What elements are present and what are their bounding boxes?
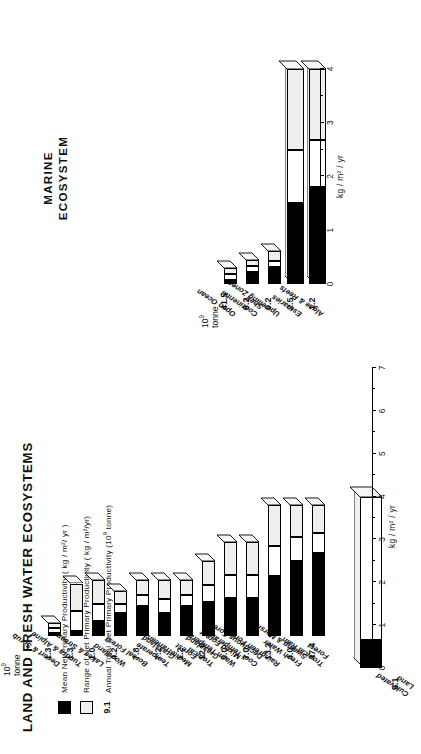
bar-side-face — [217, 260, 237, 268]
bar-front-face — [287, 69, 304, 284]
bar-front-face — [246, 542, 259, 636]
marine-axis-tick — [320, 283, 324, 284]
marine-axis-line — [320, 69, 321, 284]
bar-top-face — [261, 498, 268, 636]
bar-marine-4 — [217, 261, 237, 284]
bar-front-face — [290, 505, 303, 636]
bar-front-face — [48, 623, 61, 636]
bar-segment-mean — [48, 633, 61, 636]
land-axis-minor-tick — [372, 431, 375, 432]
bar-segment-range — [268, 546, 281, 576]
bar-land-10 — [85, 573, 105, 636]
bar-segment-mean — [202, 602, 215, 636]
bar-segment-range — [246, 266, 259, 272]
bar-front-face — [158, 580, 171, 636]
bar-land-8 — [129, 573, 149, 636]
bar-segment-range — [202, 585, 215, 602]
marine-axis-tick-label: 4 — [325, 61, 335, 77]
bar-segment-mean — [224, 280, 237, 284]
bar-segment-range — [312, 533, 325, 553]
land-total-unit: 109tonne — [0, 654, 22, 676]
bar-segment-tail — [114, 591, 127, 604]
bar-segment-tail — [246, 260, 259, 266]
marine-axis-tick-label: 1 — [325, 222, 335, 238]
marine-axis-tick — [320, 176, 324, 177]
land-axis-minor-tick — [372, 474, 375, 475]
bar-top-face — [107, 584, 114, 636]
bar-top-face — [151, 573, 158, 636]
bar-front-face — [224, 542, 237, 636]
bar-segment-mean — [246, 599, 259, 637]
bar-front-face — [268, 251, 281, 284]
bar-land-9 — [107, 584, 127, 636]
bar-segment-range — [287, 150, 304, 204]
bar-top-face — [283, 498, 290, 636]
bar-side-face — [239, 252, 259, 260]
marine-axis-minor-tick — [320, 202, 323, 203]
land-axis-tick-label: 2 — [377, 574, 387, 590]
bar-segment-mean — [268, 267, 281, 284]
land-axis-label: kg / m² / yr — [387, 505, 397, 548]
bar-land-3 — [239, 535, 259, 636]
bar-land-0 — [305, 498, 325, 636]
bar-segment-range — [268, 261, 281, 268]
bar-segment-tail — [246, 542, 259, 575]
plot-area: 01234567kg / m² / yr9.1Cultivated Land47… — [0, 0, 421, 754]
bar-segment-mean — [312, 554, 325, 637]
bar-land-1 — [283, 498, 303, 636]
bar-top-face — [173, 573, 180, 636]
land-axis-minor-tick — [372, 517, 375, 518]
bar-side-face — [261, 497, 281, 505]
bar-segment-mean — [287, 203, 304, 284]
bar-land-4 — [217, 535, 237, 636]
bar-front-face — [114, 591, 127, 636]
bar-segment-tail — [136, 580, 149, 595]
land-axis-tick — [372, 538, 376, 539]
marine-axis-tick — [320, 68, 324, 69]
land-axis-tick-label: 3 — [377, 531, 387, 547]
bar-land-12 — [41, 616, 61, 636]
bar-front-face — [268, 505, 281, 636]
bar-front-face — [70, 584, 83, 637]
bar-land-7 — [151, 573, 171, 636]
bar-front-face — [136, 580, 149, 636]
bar-side-face — [195, 553, 215, 561]
bar-top-face — [63, 577, 70, 637]
bar-segment-range — [92, 604, 105, 621]
bar-side-face — [107, 583, 127, 591]
figure-canvas: LAND AND FRESH WATER ECOSYSTEMS MARINE E… — [0, 0, 421, 754]
land-axis-tick — [372, 667, 376, 668]
land-axis-minor-tick — [372, 560, 375, 561]
bar-segment-mean — [268, 576, 281, 636]
bar-segment-range — [246, 575, 259, 599]
bar-segment-range — [180, 595, 193, 606]
bar-segment-mean — [92, 621, 105, 636]
bar-segment-tail — [312, 505, 325, 533]
bar-segment-range — [70, 611, 83, 631]
bar-segment-mean — [180, 606, 193, 636]
bar-front-face — [202, 561, 215, 636]
bar-side-face — [217, 534, 237, 542]
bar-side-face — [261, 243, 281, 251]
bar-land-6 — [173, 573, 193, 636]
category-label-cultivated-land: Cultivated Land — [375, 664, 415, 698]
bar-segment-tail — [268, 505, 281, 546]
bar-segment-tail — [180, 580, 193, 595]
land-axis-tick — [372, 410, 376, 411]
bar-segment-mean — [158, 614, 171, 637]
bar-side-face — [41, 615, 61, 623]
land-axis-minor-tick — [372, 388, 375, 389]
bar-side-face — [279, 60, 304, 69]
bar-segment-tail — [268, 251, 281, 261]
marine-axis-tick — [320, 122, 324, 123]
bar-segment-tail — [92, 580, 105, 604]
bar-segment-mean — [309, 187, 326, 284]
bar-segment-tail — [48, 623, 61, 628]
bar-segment-range — [136, 595, 149, 606]
bar-front-face — [246, 260, 259, 284]
land-axis-minor-tick — [372, 603, 375, 604]
bar-segment-mean — [224, 599, 237, 637]
bar-top-face — [350, 487, 360, 668]
marine-axis-tick-label: 3 — [325, 115, 335, 131]
bar-front-face — [180, 580, 193, 636]
